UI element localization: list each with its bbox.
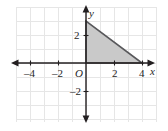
y-tick-label-2: 2	[74, 30, 80, 41]
y-tick-label-neg2: –2	[70, 86, 81, 97]
x-tick-label-neg2: –2	[52, 68, 63, 79]
x-axis-label: x	[150, 66, 155, 77]
x-tick-label-neg4: –4	[24, 68, 35, 79]
coordinate-graph	[0, 0, 168, 131]
origin-label: O	[75, 68, 83, 79]
x-tick-label-4: 4	[139, 68, 145, 79]
y-axis-label: y	[89, 8, 94, 19]
coordinate-plane-figure: –4 –2 2 4 2 –2 O x y	[0, 0, 168, 131]
x-tick-label-2: 2	[112, 68, 118, 79]
x-axis-left-arrow	[11, 60, 19, 67]
